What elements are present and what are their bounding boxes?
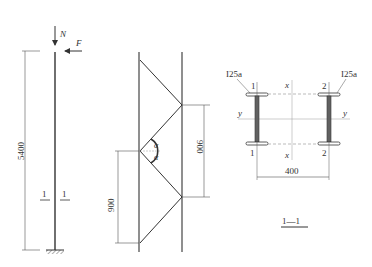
lateral-load-label: F bbox=[75, 38, 82, 48]
section-mark-right: 1 bbox=[62, 189, 67, 199]
section-title: 1—1 bbox=[282, 216, 300, 226]
axis-y-right: y bbox=[342, 108, 347, 118]
leader-right bbox=[337, 79, 346, 93]
section-mark-left: 1 bbox=[42, 189, 47, 199]
height-dim-label: 5400 bbox=[16, 142, 26, 161]
diagram-canvas: N F 5400 1 1 α α 900 900 bbox=[0, 0, 372, 267]
support-hatch-icon bbox=[46, 250, 64, 254]
profile-left-label: I25a bbox=[226, 69, 242, 79]
axis-x-top: x bbox=[284, 80, 289, 90]
chord-2-top: 2 bbox=[322, 81, 327, 91]
axis-y-left: y bbox=[237, 108, 242, 118]
profile-right-label: I25a bbox=[341, 69, 357, 79]
spacing-left-label: 900 bbox=[106, 198, 116, 212]
chord-1-top: 1 bbox=[251, 81, 256, 91]
cross-section: I25a I25a 1 1 2 2 x x y y 400 1—1 bbox=[226, 69, 357, 227]
spacing-right-label: 900 bbox=[195, 140, 205, 154]
leader-left bbox=[237, 79, 250, 93]
i-beam-left bbox=[246, 82, 268, 155]
width-dim-label: 400 bbox=[285, 166, 299, 176]
column-elevation: N F 5400 1 1 bbox=[16, 26, 82, 254]
lacing-diagonals bbox=[140, 60, 182, 243]
chord-1-bottom: 1 bbox=[250, 148, 255, 158]
axis-x-bottom: x bbox=[284, 150, 289, 160]
chord-2-bottom: 2 bbox=[322, 148, 327, 158]
i-beam-right bbox=[318, 82, 340, 155]
axial-load-label: N bbox=[59, 29, 67, 39]
lacing-elevation: α α 900 900 bbox=[106, 52, 210, 252]
